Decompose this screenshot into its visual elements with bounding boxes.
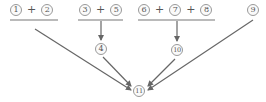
group-1: 1+2	[10, 4, 53, 16]
term-8: 8	[200, 4, 212, 16]
term-5: 5	[110, 4, 122, 16]
node-9: 9	[247, 4, 259, 16]
group-2: 3+5	[79, 4, 122, 16]
term-3: 3	[79, 4, 91, 16]
term-11: 11	[133, 85, 145, 97]
arrow-g1-to-11	[35, 29, 131, 90]
arrow-9-to-11	[148, 20, 253, 90]
plus-operator: +	[186, 4, 195, 16]
term-9: 9	[247, 4, 259, 16]
term-6: 6	[138, 4, 150, 16]
term-1: 1	[10, 4, 22, 16]
arrow-10-to-11	[148, 59, 175, 86]
node-10: 10	[171, 44, 183, 56]
term-4: 4	[95, 43, 107, 55]
term-2: 2	[41, 4, 53, 16]
plus-operator: +	[27, 4, 36, 16]
node-11: 11	[133, 85, 145, 97]
group-3: 6+7+8	[138, 4, 212, 16]
plus-operator: +	[155, 4, 164, 16]
term-7: 7	[169, 4, 181, 16]
term-10: 10	[171, 44, 183, 56]
node-4: 4	[95, 43, 107, 55]
plus-operator: +	[96, 4, 105, 16]
